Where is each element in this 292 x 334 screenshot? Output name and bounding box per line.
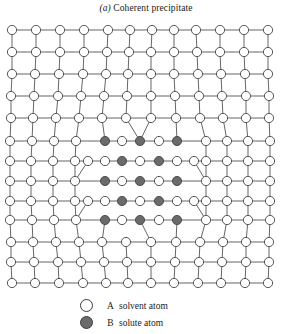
solvent-atom [243, 196, 252, 205]
solvent-atom [83, 156, 92, 165]
lattice-bond [128, 57, 129, 70]
solvent-atom [54, 69, 63, 78]
solvent-atom [121, 113, 130, 122]
solvent-atom [216, 69, 225, 78]
lattice-bond [245, 267, 246, 279]
solute-atom [135, 136, 144, 145]
solvent-atom [218, 237, 227, 246]
solvent-atom [76, 91, 85, 100]
solvent-atom [101, 69, 110, 78]
lattice-bond [198, 79, 199, 92]
lattice-bond [83, 57, 84, 70]
lattice-bond [244, 57, 245, 70]
solvent-atom [169, 25, 178, 34]
open-circle-icon [80, 299, 93, 312]
solvent-atom [192, 47, 201, 56]
solvent-atom [241, 91, 250, 100]
lattice-bond [77, 123, 79, 137]
solvent-atom [31, 47, 40, 56]
solvent-atom [26, 196, 35, 205]
solvent-atom [194, 91, 203, 100]
solvent-atom [172, 156, 181, 165]
lattice-bond [35, 57, 36, 70]
solvent-atom [169, 69, 178, 78]
solvent-atom [265, 156, 274, 165]
lattice-bond [56, 101, 57, 114]
solvent-atom [102, 47, 111, 56]
solvent-atom [264, 113, 273, 122]
solvent-atom [49, 136, 58, 145]
solvent-atom [218, 113, 227, 122]
solute-atom [100, 176, 109, 185]
solvent-atom [216, 278, 225, 287]
solvent-atom [76, 257, 85, 266]
solvent-atom [201, 176, 210, 185]
lattice-bond [102, 247, 103, 258]
solute-atom [172, 136, 181, 145]
lattice-bond [220, 57, 221, 70]
lattice-bond [81, 79, 82, 92]
solvent-atom [125, 25, 134, 34]
lattice-bond [128, 122, 137, 137]
solvent-atom [28, 113, 37, 122]
solvent-atom [97, 237, 106, 246]
solvent-atom [241, 113, 250, 122]
solvent-atom [27, 136, 36, 145]
lattice-bond [75, 146, 76, 157]
lattice-bond [78, 165, 86, 177]
lattice-bond [34, 267, 35, 279]
solvent-atom [135, 156, 144, 165]
solvent-atom [30, 69, 39, 78]
lattice-bond [196, 165, 203, 177]
solvent-atom [189, 156, 198, 165]
solvent-atom [31, 25, 40, 34]
solvent-atom [263, 25, 272, 34]
solvent-atom [117, 136, 126, 145]
lattice-bond [221, 79, 222, 92]
lattice-bond [79, 101, 80, 114]
solvent-atom [5, 156, 14, 165]
solvent-atom [99, 91, 108, 100]
solvent-atom [122, 257, 131, 266]
solvent-atom [55, 47, 64, 56]
solvent-atom [123, 69, 132, 78]
lattice-bond [221, 267, 222, 279]
lattice-svg [0, 20, 292, 298]
solvent-atom [172, 196, 181, 205]
solvent-atom [30, 278, 39, 287]
lattice-bond [129, 35, 130, 48]
solvent-atom [5, 215, 14, 224]
solvent-atom [146, 91, 155, 100]
lattice-bond [103, 225, 105, 238]
solvent-atom [146, 69, 155, 78]
lattice-bond [11, 79, 12, 92]
lattice-bond [197, 57, 198, 70]
lattice-bond [58, 79, 59, 92]
solvent-atom [154, 176, 163, 185]
lattice-bond [127, 79, 128, 92]
solvent-atom [169, 47, 178, 56]
lattice-bond [201, 224, 205, 237]
lattice-bond [201, 122, 205, 136]
lattice-bond [198, 267, 199, 279]
lattice-bond [224, 123, 226, 137]
solvent-atom [6, 113, 15, 122]
solvent-atom [217, 257, 226, 266]
lattice-bond [222, 247, 223, 258]
solvent-atom [79, 47, 88, 56]
solvent-atom [48, 156, 57, 165]
lattice-bond [174, 267, 175, 279]
solvent-atom [154, 215, 163, 224]
solute-atom [154, 156, 163, 165]
solvent-atom [29, 91, 38, 100]
legend-item-solute: B solute atom [0, 314, 292, 331]
lattice-bond [104, 79, 105, 92]
solvent-atom [48, 176, 57, 185]
legend-symbol-b: B [102, 318, 119, 328]
solvent-atom [215, 25, 224, 34]
solvent-atom [195, 113, 204, 122]
solvent-atom [189, 196, 198, 205]
solvent-atom [201, 215, 210, 224]
atom-layer [5, 25, 274, 287]
solvent-atom [193, 69, 202, 78]
